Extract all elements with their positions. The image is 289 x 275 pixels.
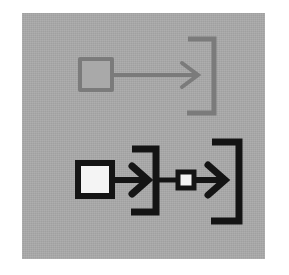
diagram-canvas [22,13,265,259]
faded-input-square [80,59,112,90]
bold-input-square [78,163,112,196]
bold-small-square [178,172,194,188]
figure-root: two-stage block diagram Hand-drawn style… [0,0,289,275]
top-diagram [80,39,214,113]
diagram-panel [22,13,265,259]
bottom-diagram [78,142,239,221]
